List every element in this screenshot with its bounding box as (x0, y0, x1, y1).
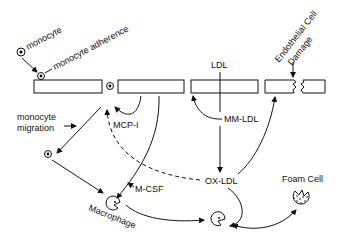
macrophage-to-uptake-arrow (126, 205, 204, 221)
mcp1-arrow (115, 96, 141, 114)
monocyte-to-macrophage-arrow (52, 160, 103, 193)
ldl-label: LDL (211, 60, 228, 70)
endothelial-cell-2 (118, 80, 184, 93)
damaged-endothelial-cell-left (265, 80, 296, 93)
monocyte-label: monocyte (24, 25, 63, 52)
foam-cell-label: Foam Cell (282, 174, 323, 184)
mcp1-label: MCP-I (113, 120, 139, 130)
m-csf-label: M-CSF (135, 184, 164, 194)
m-csf-arrow (117, 96, 159, 198)
macrophage-icon (106, 196, 120, 210)
foam-cell-icon (293, 190, 309, 204)
ox-ldl-to-endothelium-arrow (238, 97, 275, 174)
monocyte-icon (17, 48, 25, 56)
endothelial-cell-1 (34, 80, 102, 93)
migration-arrow (57, 107, 101, 153)
mm-ldl-label: MM-LDL (224, 114, 259, 124)
damaged-endothelial-cell-right (301, 80, 325, 93)
m-csf-pointer-arrow (128, 183, 134, 187)
ox-ldl-to-macrophage-arrow (228, 188, 242, 226)
adherence-leader-line (45, 69, 52, 73)
migrated-monocyte-icon (45, 151, 52, 158)
monocyte-arrow (22, 58, 37, 72)
adherent-monocyte-icon (38, 73, 45, 80)
transmigrating-monocyte-icon (107, 83, 114, 90)
ox-ldl-label: OX-LDL (205, 176, 238, 186)
monocyte-migration-label-1: monocyte (17, 112, 56, 122)
loaded-macrophage-icon (211, 212, 225, 226)
atherosclerosis-diagram: monocyte monocyte adherence monocyte mig… (0, 0, 342, 244)
macrophage-label: Macrophage (87, 203, 137, 231)
mm-ldl-to-endothelium-arrow (193, 96, 222, 119)
endothelial-cell-3 (191, 80, 258, 93)
endothelium (34, 80, 325, 93)
monocyte-adherence-label: monocyte adherence (51, 23, 130, 71)
monocyte-migration-label-2: migration (17, 123, 54, 133)
